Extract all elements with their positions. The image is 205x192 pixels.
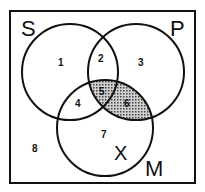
region-label-2: 2 — [98, 53, 104, 64]
x-mark: X — [114, 142, 127, 164]
region-label-4: 4 — [75, 98, 81, 109]
set-label-p: P — [170, 16, 185, 41]
set-label-s: S — [21, 16, 36, 41]
region-label-3: 3 — [138, 57, 144, 68]
region-label-7: 7 — [101, 129, 107, 140]
venn-diagram: S P M 1 2 3 4 5 6 7 8 X — [0, 0, 205, 192]
region-label-8: 8 — [32, 143, 38, 154]
set-label-m: M — [145, 156, 163, 181]
region-label-1: 1 — [58, 57, 64, 68]
region-label-6: 6 — [124, 98, 130, 109]
region-label-5: 5 — [99, 86, 105, 97]
